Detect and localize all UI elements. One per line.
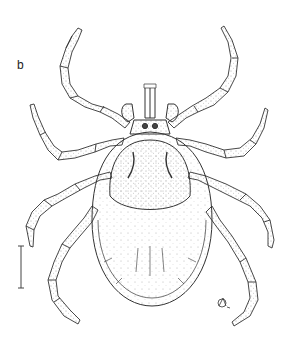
tick-illustration bbox=[0, 0, 298, 339]
scale-bar bbox=[18, 246, 24, 288]
leg-left-4 bbox=[48, 206, 98, 324]
figure-panel: b bbox=[0, 0, 298, 339]
leg-left-1 bbox=[60, 28, 130, 128]
leg-right-4 bbox=[206, 206, 258, 326]
artist-signature bbox=[218, 298, 230, 308]
